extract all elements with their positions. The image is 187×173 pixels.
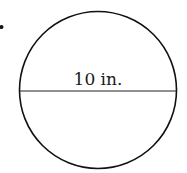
- diameter-label: 10 in.: [74, 69, 123, 89]
- circle-outline: [20, 12, 177, 169]
- circle-diagram: 10 in.: [0, 0, 187, 173]
- bullet-dot: [0, 25, 4, 29]
